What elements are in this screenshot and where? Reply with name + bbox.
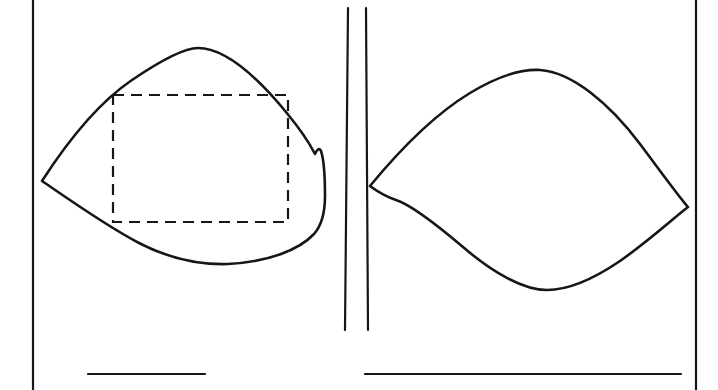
line-art-drawing: Left vertical border rule Right vertical… [0,0,718,390]
figure-canvas: Left vertical border rule Right vertical… [0,0,718,390]
page-background [0,0,718,390]
